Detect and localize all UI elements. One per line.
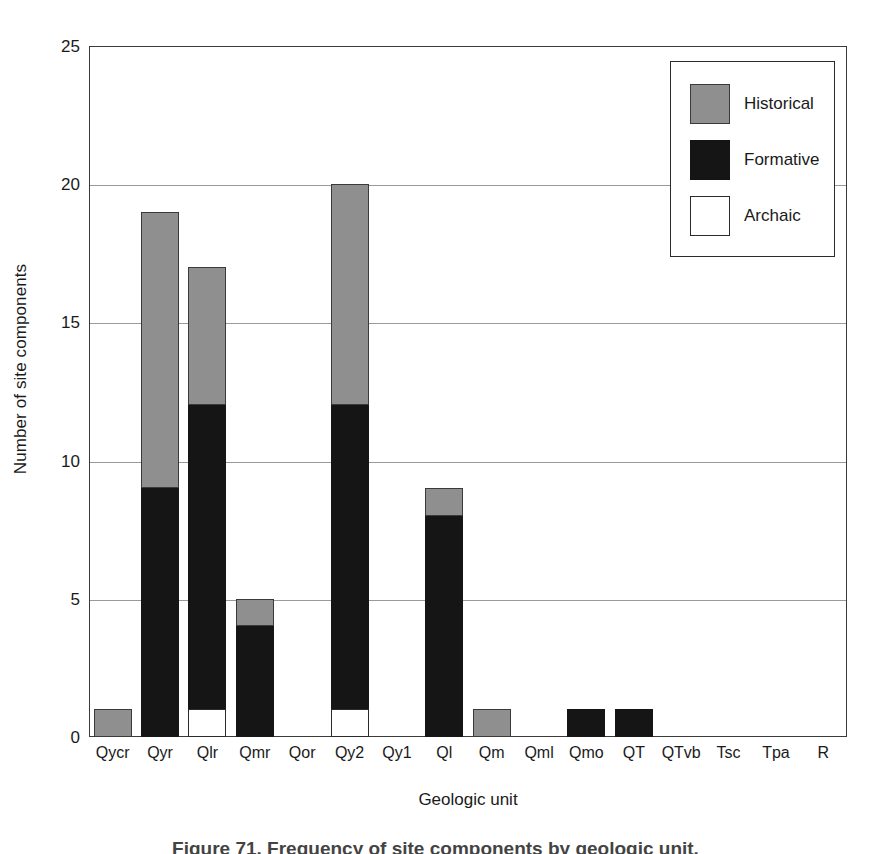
y-axis-tick-labels: 0510152025: [0, 46, 89, 737]
y-tick-label-15: 15: [15, 314, 89, 331]
chart-legend: HistoricalFormativeArchaic: [670, 61, 835, 257]
legend-item-formative: Formative: [690, 132, 834, 188]
x-tick-label-Qmo: Qmo: [563, 742, 610, 764]
gridline-5: [90, 600, 846, 601]
y-tick-label-20: 20: [15, 176, 89, 193]
x-tick-label-Qyr: Qyr: [136, 742, 183, 764]
figure-stacked-bar-chart: Number of site components 0510152025 Qyc…: [0, 0, 871, 854]
legend-swatch-archaic-icon: [690, 196, 730, 236]
x-tick-label-Qm: Qm: [468, 742, 515, 764]
x-tick-label-Ql: Ql: [421, 742, 468, 764]
legend-label: Historical: [744, 94, 814, 114]
x-tick-label-Qy1: Qy1: [373, 742, 420, 764]
gridline-10: [90, 462, 846, 463]
legend-item-archaic: Archaic: [690, 188, 834, 244]
legend-label: Formative: [744, 150, 820, 170]
x-tick-label-Qml: Qml: [515, 742, 562, 764]
gridline-15: [90, 323, 846, 324]
x-tick-label-Qycr: Qycr: [89, 742, 136, 764]
legend-swatch-historical-icon: [690, 84, 730, 124]
x-tick-label-Qor: Qor: [279, 742, 326, 764]
y-tick-label-25: 25: [15, 38, 89, 55]
y-tick-label-5: 5: [15, 590, 89, 607]
x-tick-label-Tsc: Tsc: [705, 742, 752, 764]
x-axis-tick-labels: QycrQyrQlrQmrQorQy2Qy1QlQmQmlQmoQTQTvbTs…: [89, 742, 847, 768]
x-tick-label-Tpa: Tpa: [752, 742, 799, 764]
legend-label: Archaic: [744, 206, 801, 226]
y-tick-label-0: 0: [15, 729, 89, 746]
x-tick-label-Qy2: Qy2: [326, 742, 373, 764]
x-tick-label-Qlr: Qlr: [184, 742, 231, 764]
x-axis-title: Geologic unit: [89, 790, 847, 810]
x-tick-label-Qmr: Qmr: [231, 742, 278, 764]
figure-caption: Figure 71. Frequency of site components …: [0, 836, 871, 854]
y-tick-label-10: 10: [15, 452, 89, 469]
x-tick-label-R: R: [800, 742, 847, 764]
legend-item-historical: Historical: [690, 76, 834, 132]
x-tick-label-QTvb: QTvb: [658, 742, 705, 764]
x-tick-label-QT: QT: [610, 742, 657, 764]
legend-swatch-formative-icon: [690, 140, 730, 180]
